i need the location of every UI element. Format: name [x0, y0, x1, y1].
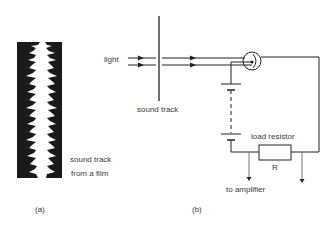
arrow-icon — [138, 63, 144, 68]
amplifier-arrow-right-icon — [300, 179, 305, 183]
load-resistor-box — [259, 145, 291, 160]
amplifier-label: to amplifier — [226, 186, 265, 194]
arrow-icon — [190, 56, 196, 61]
sound-track-label: sound track — [137, 106, 178, 114]
panel-b-label: (b) — [192, 206, 202, 214]
photocell-cathode — [253, 54, 256, 68]
arrow-icon — [190, 63, 196, 68]
arrow-icon — [138, 56, 144, 61]
film-sound-track-strip — [17, 42, 62, 178]
film-caption-line2: from a film — [71, 170, 108, 178]
resistor-symbol-label: R — [272, 164, 278, 172]
light-label: light — [104, 56, 119, 64]
film-caption-line1: sound track — [70, 156, 111, 164]
load-resistor-label: load resistor — [251, 133, 295, 141]
photocell-anode-dot — [250, 60, 253, 63]
panel-a-label: (a) — [35, 206, 45, 214]
amplifier-arrow-left-icon — [247, 177, 252, 181]
